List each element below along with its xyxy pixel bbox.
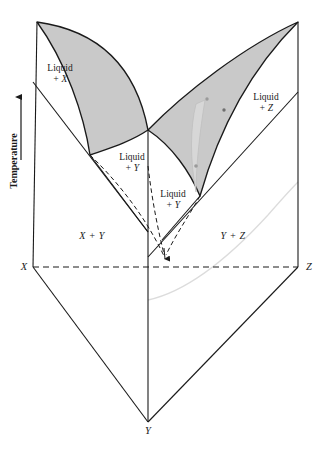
ternary-eutectic-arrow: [164, 248, 165, 259]
fold-marker-lower: [194, 164, 198, 168]
phase-diagram-canvas: [0, 0, 321, 454]
liquidus-surface-group: [37, 22, 298, 196]
left-liquidus-surface: [37, 22, 148, 155]
base-faint-curve-group: [148, 182, 298, 300]
ternary-phase-diagram-figure: Temperature Liquid + X Liquid + Z Liquid…: [0, 0, 321, 454]
right-cusp-tie-line: [162, 196, 200, 240]
left-cusp-tie-line: [90, 155, 148, 232]
base-triangle-group: [33, 267, 298, 422]
left-vertical-edge: [33, 22, 37, 267]
temperature-axis-label: Temperature: [8, 133, 19, 189]
fold-marker-upper-right: [222, 108, 225, 111]
temperature-axis-label-wrap: Temperature: [2, 96, 24, 226]
eutectic-valley-lines: [33, 82, 298, 257]
base-projection-curve: [148, 182, 298, 300]
right-trough-dashed-curve: [166, 196, 200, 255]
ternary-eutectic-dashed-group: [90, 155, 200, 259]
fold-marker-upper: [205, 97, 208, 100]
base-edge-zy: [148, 267, 298, 422]
base-edge-xy: [33, 267, 148, 422]
